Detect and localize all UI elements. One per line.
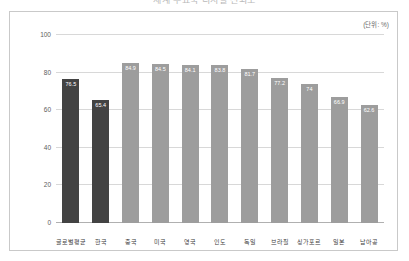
x-axis-category-label: 독일 [244, 237, 256, 246]
bar[interactable]: 81.7 [241, 69, 258, 223]
x-axis-category-label: 중국 [125, 237, 137, 246]
x-axis-category-label: 영국 [184, 237, 196, 246]
bar-slot: 81.7독일 [235, 35, 265, 223]
y-axis-tick-label: 20 [44, 181, 51, 188]
x-axis-category-label: 일본 [333, 237, 345, 246]
bar-value-label: 81.7 [241, 71, 258, 77]
bar[interactable]: 84.1 [182, 65, 199, 223]
x-axis-category-label: 인도 [214, 237, 226, 246]
bar-value-label: 76.5 [62, 81, 79, 87]
bar-value-label: 65.4 [92, 102, 109, 108]
y-axis-tick-label: 40 [44, 143, 51, 150]
x-axis-category-label: 글로벌평균 [56, 237, 86, 246]
bar-value-label: 83.8 [211, 67, 228, 73]
bar-slot: 84.1영국 [175, 35, 205, 223]
x-axis-category-label: 남아공 [360, 237, 378, 246]
bar[interactable]: 77.2 [271, 78, 288, 223]
bar-value-label: 77.2 [271, 80, 288, 86]
bar[interactable]: 65.4 [92, 100, 109, 223]
page-title: 세계 주요국 디지털 신뢰도 [0, 0, 409, 6]
bar[interactable]: 74 [301, 84, 318, 223]
bar-slot: 62.6남아공 [354, 35, 384, 223]
y-axis-tick-label: 80 [44, 68, 51, 75]
x-axis-category-label: 미국 [154, 237, 166, 246]
bar-slot: 84.9중국 [116, 35, 146, 223]
bar[interactable]: 84.5 [152, 64, 169, 223]
bar-slot: 84.5미국 [145, 35, 175, 223]
bar-slot: 77.2브라질 [265, 35, 295, 223]
x-axis-category-label: 싱가포르 [297, 237, 321, 246]
chart-frame: (단위: %) 020406080100 76.5글로벌평균65.4한국84.9… [9, 11, 398, 251]
bar-slot: 74싱가포르 [295, 35, 325, 223]
x-axis-category-label: 브라질 [271, 237, 289, 246]
bar[interactable]: 66.9 [331, 97, 348, 223]
bar-slot: 65.4한국 [86, 35, 116, 223]
bar-series: 76.5글로벌평균65.4한국84.9중국84.5미국84.1영국83.8인도8… [56, 35, 384, 223]
x-axis-category-label: 한국 [95, 237, 107, 246]
bar-value-label: 84.5 [152, 66, 169, 72]
y-axis-tick-label: 100 [40, 31, 51, 38]
unit-label: (단위: %) [363, 19, 389, 29]
bar-value-label: 84.1 [182, 67, 199, 73]
bar-value-label: 74 [301, 86, 318, 92]
bar-slot: 76.5글로벌평균 [56, 35, 86, 223]
screenshot-root: 세계 주요국 디지털 신뢰도 (단위: %) 020406080100 76.5… [0, 0, 409, 261]
bar-slot: 66.9일본 [324, 35, 354, 223]
bar-value-label: 66.9 [331, 99, 348, 105]
cropped-title-strip: 세계 주요국 디지털 신뢰도 [0, 0, 409, 9]
bar-slot: 83.8인도 [205, 35, 235, 223]
y-axis-tick-label: 60 [44, 106, 51, 113]
bar-value-label: 62.6 [361, 107, 378, 113]
y-axis-tick-label: 0 [47, 219, 51, 226]
bar-value-label: 84.9 [122, 65, 139, 71]
bar[interactable]: 76.5 [62, 79, 79, 223]
bar[interactable]: 62.6 [361, 105, 378, 223]
bar[interactable]: 84.9 [122, 63, 139, 223]
bar[interactable]: 83.8 [211, 65, 228, 223]
plot-area: 020406080100 76.5글로벌평균65.4한국84.9중국84.5미국… [56, 35, 384, 223]
